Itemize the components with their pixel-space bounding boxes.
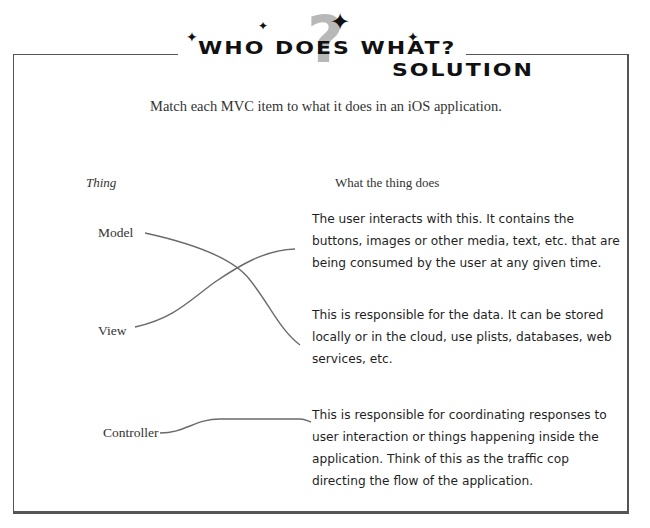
description-model: This is responsible for the data. It can…	[312, 304, 622, 370]
description-controller: This is responsible for coordinating res…	[312, 404, 622, 492]
match-line-model	[145, 233, 300, 345]
description-view: The user interacts with this. It contain…	[312, 208, 622, 274]
match-line-view	[135, 249, 295, 327]
match-line-controller	[160, 419, 311, 433]
